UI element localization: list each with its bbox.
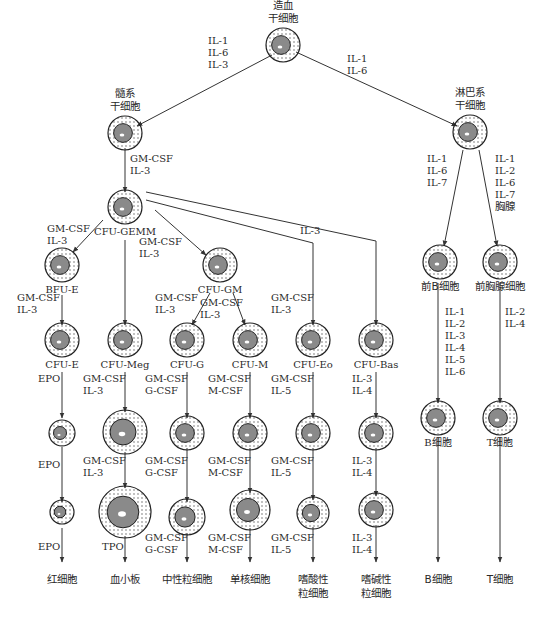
cell-label: CFU-Meg bbox=[101, 359, 150, 370]
factor-label: IL-5 bbox=[271, 544, 291, 555]
factor-label: IL-3 bbox=[200, 309, 220, 320]
final-cell-label: T细胞 bbox=[486, 573, 514, 585]
cell-ery_late bbox=[50, 500, 74, 524]
cell-nucleus-icon bbox=[489, 409, 508, 428]
differentiation-arrow bbox=[296, 52, 457, 126]
cell-nucleus-icon bbox=[54, 506, 66, 518]
nucleolus-icon bbox=[495, 262, 500, 265]
factor-label: IL-6 bbox=[347, 65, 367, 76]
factor-label: IL-2 bbox=[505, 306, 525, 317]
final-cell-label: 血小板 bbox=[110, 573, 141, 585]
cell-mono_mid bbox=[233, 416, 267, 450]
nucleolus-icon bbox=[371, 433, 376, 436]
nucleolus-icon bbox=[215, 265, 220, 268]
factor-label: G-CSF bbox=[145, 544, 178, 555]
cell-label: B细胞 bbox=[424, 436, 451, 448]
cell-bfu_e: BFU-E bbox=[45, 248, 79, 295]
cell-nucleus-icon bbox=[459, 123, 478, 142]
cell-mono_late bbox=[230, 490, 270, 530]
cell-eo_late bbox=[297, 497, 329, 529]
factor-label: IL-7 bbox=[427, 177, 447, 188]
cell-lymphoid: 淋巴系干细胞 bbox=[453, 86, 487, 149]
cell-label: 淋巴系 bbox=[455, 86, 485, 98]
cell-neu_late bbox=[169, 499, 205, 535]
factor-label: IL-1 bbox=[495, 153, 515, 164]
factor-label: IL-3 bbox=[83, 467, 103, 478]
nucleolus-icon bbox=[58, 513, 61, 515]
nucleolus-icon bbox=[182, 340, 187, 343]
factor-label: GM-CSF bbox=[155, 292, 198, 303]
factor-label: GM-CSF bbox=[200, 297, 243, 308]
factor-label: IL-6 bbox=[208, 47, 228, 58]
factor-label: IL-3 bbox=[300, 225, 320, 236]
cell-platelet_late bbox=[99, 486, 151, 538]
factor-label: IL-3 bbox=[139, 248, 159, 259]
cell-label: CFU-GM bbox=[198, 284, 242, 295]
factor-label: IL-3 bbox=[352, 532, 372, 543]
cell-nucleus-icon bbox=[302, 331, 321, 350]
cell-label: 造血 bbox=[273, 0, 294, 11]
cell-ery_mid bbox=[49, 420, 75, 446]
cell-nucleus-icon bbox=[51, 256, 70, 275]
nucleolus-icon bbox=[118, 511, 126, 516]
cell-label: 前胸腺细胞 bbox=[475, 280, 526, 292]
factor-label: IL-2 bbox=[495, 165, 515, 176]
differentiation-arrow bbox=[155, 210, 206, 255]
differentiation-arrow bbox=[137, 55, 272, 126]
factor-label: IL-5 bbox=[271, 467, 291, 478]
factor-label: G-CSF bbox=[145, 385, 178, 396]
factor-label: EPO bbox=[38, 459, 60, 470]
cell-nucleus-icon bbox=[489, 253, 508, 272]
cell-label: 髓系 bbox=[115, 87, 135, 99]
nucleolus-icon bbox=[435, 262, 440, 265]
factor-label: IL-4 bbox=[352, 467, 372, 478]
cell-bas_mid bbox=[359, 416, 393, 450]
cell-eo_mid bbox=[296, 416, 330, 450]
cell-label: 前B细胞 bbox=[421, 280, 459, 292]
nucleolus-icon bbox=[371, 340, 376, 343]
factor-label: IL-3 bbox=[83, 385, 103, 396]
final-cell-label: 嗜酸性 bbox=[298, 573, 328, 585]
final-cells-layer: 红细胞血小板中性粒细胞单核细胞嗜酸性粒细胞嗜碱性粒细胞B细胞T细胞 bbox=[47, 573, 514, 599]
cell-label: CFU-G bbox=[170, 359, 204, 370]
cell-nucleus-icon bbox=[365, 424, 384, 443]
final-cell-label: 粒细胞 bbox=[298, 587, 329, 599]
cell-cfu_meg: CFU-Meg bbox=[101, 323, 150, 370]
factor-label: IL-3 bbox=[352, 455, 372, 466]
factor-label: GM-CSF bbox=[208, 455, 251, 466]
cell-label: T细胞 bbox=[487, 436, 514, 448]
cell-cfu_bas: CFU-Bas bbox=[354, 323, 399, 370]
nucleolus-icon bbox=[278, 45, 283, 48]
cell-nucleus-icon bbox=[302, 424, 321, 443]
factor-label: M-CSF bbox=[208, 544, 243, 555]
cell-nucleus-icon bbox=[51, 331, 70, 350]
factor-label: GM-CSF bbox=[208, 373, 251, 384]
cell-nucleus-icon bbox=[54, 427, 67, 440]
cell-label: CFU-Bas bbox=[354, 359, 399, 370]
factor-label: GM-CSF bbox=[145, 455, 188, 466]
factor-label: M-CSF bbox=[208, 385, 243, 396]
factor-label: IL-5 bbox=[445, 354, 465, 365]
nucleolus-icon bbox=[244, 510, 250, 514]
cell-pre_b: 前B细胞 bbox=[421, 245, 459, 292]
factor-label: IL-3 bbox=[130, 165, 150, 176]
nucleolus-icon bbox=[119, 432, 125, 436]
nucleolus-icon bbox=[120, 207, 125, 210]
factor-label: M-CSF bbox=[208, 467, 243, 478]
cell-nucleus-icon bbox=[114, 331, 133, 350]
final-cell-label: B细胞 bbox=[424, 573, 452, 585]
factor-label: G-CSF bbox=[145, 467, 178, 478]
final-cell-label: 嗜碱性 bbox=[361, 573, 391, 585]
cell-nucleus-icon bbox=[429, 253, 448, 272]
cell-label: BFU-E bbox=[45, 284, 78, 295]
factor-label: IL-4 bbox=[445, 342, 465, 353]
cell-label: CFU-M bbox=[232, 359, 268, 370]
nucleolus-icon bbox=[371, 510, 376, 513]
factor-label: GM-CSF bbox=[47, 223, 90, 234]
differentiation-arrow-bent bbox=[146, 192, 376, 325]
nucleolus-icon bbox=[182, 433, 187, 436]
cell-cfu_eo: CFU-Eo bbox=[293, 323, 333, 370]
final-cell-label: 单核细胞 bbox=[230, 573, 271, 585]
factor-label: IL-6 bbox=[495, 177, 515, 188]
factor-label: IL-4 bbox=[352, 544, 372, 555]
